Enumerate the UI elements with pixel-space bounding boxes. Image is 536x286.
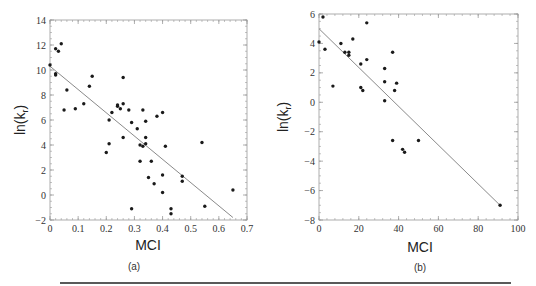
data-points-b: [317, 15, 501, 207]
y-tick-label: 12: [36, 40, 46, 51]
data-point: [62, 108, 65, 111]
y-tick-label: −2: [304, 126, 315, 137]
data-points-a: [48, 42, 234, 215]
data-point: [323, 48, 326, 51]
data-point: [498, 204, 501, 207]
panel-caption-a: (a): [128, 261, 140, 272]
data-point: [60, 42, 63, 45]
data-point: [150, 160, 153, 163]
tick-labels-a: 00.10.20.30.40.50.60.7−202468101214: [35, 15, 253, 235]
data-point: [417, 139, 420, 142]
y-tick-label: 6: [310, 9, 315, 20]
data-point: [393, 89, 396, 92]
y-tick-label: 10: [36, 65, 46, 76]
y-tick-label: 2: [310, 67, 315, 78]
data-point: [383, 67, 386, 70]
data-point: [339, 42, 342, 45]
x-tick-label: 0.3: [128, 223, 141, 234]
data-point: [119, 107, 122, 110]
data-point: [169, 207, 172, 210]
data-point: [144, 142, 147, 145]
x-tick-label: 0.6: [213, 223, 226, 234]
y-axis-title-b: ln(kr): [275, 102, 293, 132]
y-tick-label: −4: [304, 156, 315, 167]
y-axis-title-a: ln(kr): [12, 105, 30, 135]
chart-panel-a: 00.10.20.30.40.50.60.7−202468101214 MCI …: [12, 15, 253, 273]
data-point: [231, 188, 234, 191]
x-tick-label: 60: [433, 223, 443, 234]
data-point: [107, 118, 110, 121]
data-point: [82, 102, 85, 105]
y-tick-label: −8: [304, 215, 315, 226]
x-tick-label: 80: [473, 223, 483, 234]
y-tick-label: 8: [41, 90, 46, 101]
data-point: [347, 54, 350, 57]
data-point: [155, 115, 158, 118]
data-point: [401, 148, 404, 151]
data-point: [359, 86, 362, 89]
data-point: [161, 111, 164, 114]
ticks-b: [319, 14, 518, 220]
data-point: [54, 73, 57, 76]
x-tick-label: 0.2: [100, 223, 113, 234]
plot-frame-b: [319, 14, 518, 220]
data-point: [127, 108, 130, 111]
data-point: [351, 37, 354, 40]
x-tick-label: 0: [48, 223, 53, 234]
data-point: [110, 111, 113, 114]
data-point: [383, 80, 386, 83]
data-point: [203, 205, 206, 208]
data-point: [65, 88, 68, 91]
data-point: [365, 58, 368, 61]
data-point: [359, 62, 362, 65]
data-point: [57, 50, 60, 53]
data-point: [138, 160, 141, 163]
x-axis-title-b: MCI: [407, 239, 433, 255]
data-point: [116, 103, 119, 106]
data-point: [130, 207, 133, 210]
y-tick-label: 6: [41, 115, 46, 126]
x-tick-label: 0.4: [156, 223, 169, 234]
data-point: [130, 121, 133, 124]
data-point: [147, 176, 150, 179]
data-point: [181, 175, 184, 178]
data-point: [152, 182, 155, 185]
data-point: [391, 51, 394, 54]
fit-line-b: [319, 29, 500, 206]
x-tick-label: 100: [511, 223, 526, 234]
y-tick-label: 4: [310, 38, 315, 49]
y-tick-label: 4: [41, 140, 46, 151]
y-tick-label: 2: [41, 165, 46, 176]
data-point: [121, 136, 124, 139]
data-point: [141, 145, 144, 148]
ticks-a: [50, 20, 247, 220]
data-point: [321, 15, 324, 18]
data-point: [164, 145, 167, 148]
fit-line-a: [50, 66, 233, 217]
x-tick-label: 20: [354, 223, 364, 234]
data-point: [169, 212, 172, 215]
data-point: [144, 120, 147, 123]
x-tick-label: 40: [394, 223, 404, 234]
tick-labels-b: 020406080100−8−6−4−20246: [304, 9, 525, 235]
data-point: [88, 85, 91, 88]
y-tick-label: 0: [41, 190, 46, 201]
data-point: [121, 76, 124, 79]
x-tick-label: 0.1: [72, 223, 85, 234]
x-axis-title-a: MCI: [135, 237, 161, 253]
data-point: [343, 51, 346, 54]
data-point: [161, 173, 164, 176]
data-point: [181, 180, 184, 183]
data-point: [144, 136, 147, 139]
data-point: [383, 99, 386, 102]
data-point: [121, 102, 124, 105]
data-point: [107, 142, 110, 145]
data-point: [331, 84, 334, 87]
data-point: [136, 127, 139, 130]
data-point: [161, 191, 164, 194]
y-tick-label: −2: [35, 215, 46, 226]
data-point: [361, 89, 364, 92]
chart-panel-b: 020406080100−8−6−4−20246 MCI ln(kr) (b): [275, 9, 526, 274]
data-point: [105, 151, 108, 154]
data-point: [391, 139, 394, 142]
